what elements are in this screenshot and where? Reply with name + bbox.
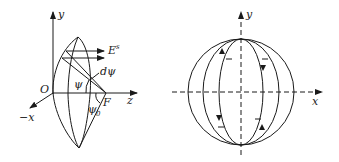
origin-label: O <box>40 83 49 96</box>
arrow-down-lower-left <box>216 115 222 121</box>
psi0-subscript: 0 <box>96 110 101 118</box>
z-label: z <box>126 94 133 107</box>
psi0-arc <box>96 93 100 103</box>
field-superscript: s <box>116 43 120 51</box>
focus-label: F <box>102 96 111 109</box>
field-label: E <box>107 44 116 57</box>
neg-x-label: −x <box>19 111 35 124</box>
arrow-up-lower-right <box>259 124 265 130</box>
arrow-down-upper-left <box>219 48 225 54</box>
x-label-right: x <box>312 95 319 108</box>
diagram-canvas: y z −x O F E s dψ ψ ψ 0 y x <box>0 0 339 162</box>
y-label-left: y <box>57 8 65 21</box>
edge-ray-lower <box>79 93 106 148</box>
aperture-figure <box>172 12 322 155</box>
y-label-right: y <box>245 8 253 21</box>
dpsi-leader <box>90 73 99 80</box>
paraboloid-figure <box>30 12 137 148</box>
psi-label: ψ <box>74 78 83 91</box>
dpsi-label: dψ <box>100 65 116 78</box>
psi-arc <box>86 80 89 93</box>
